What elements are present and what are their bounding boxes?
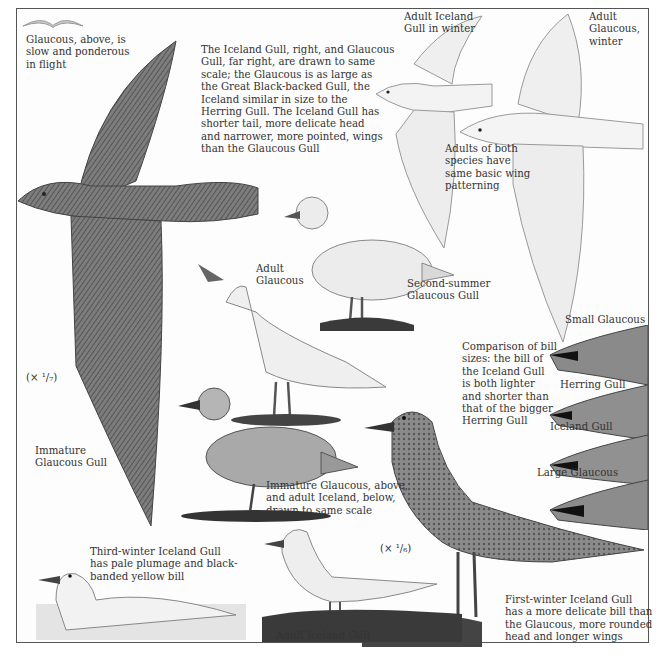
caption-adult-iceland-winter: Adult Iceland Gull in winter xyxy=(404,11,475,36)
caption-small-glaucous: Small Glaucous xyxy=(565,314,645,326)
caption-flight-note: Glaucous, above, is slow and ponderous i… xyxy=(26,34,130,71)
scale-label-right: (× ¹/₆) xyxy=(380,543,411,555)
adult-iceland-standing-illustration xyxy=(262,522,462,642)
label-large-glaucous: Large Glaucous xyxy=(537,467,618,479)
caption-first-winter-iceland: First-winter Iceland Gull has a more del… xyxy=(505,594,652,644)
caption-third-winter-iceland: Third-winter Iceland Gull has pale pluma… xyxy=(90,546,237,583)
caption-bill-comparison: Comparison of bill sizes: the bill of th… xyxy=(462,341,557,428)
caption-adult-glaucous-winter: Adult Glaucous, winter xyxy=(589,11,640,48)
label-herring-gull: Herring Gull xyxy=(560,379,625,391)
caption-second-summer-glaucous: Second-summer Glaucous Gull xyxy=(407,278,490,303)
caption-adult-glaucous: Adult Glaucous xyxy=(256,263,304,288)
caption-adult-iceland: Adult Iceland Gull xyxy=(276,630,370,642)
scale-label-left: (× ¹/₇) xyxy=(26,372,57,384)
caption-scale-note: The Iceland Gull, right, and Glaucous Gu… xyxy=(201,44,395,156)
label-iceland-gull-bill: Iceland Gull xyxy=(550,421,613,433)
glaucous-flight-silhouette xyxy=(22,14,84,30)
caption-immature-glaucous: Immature Glaucous Gull xyxy=(35,445,107,470)
caption-wing-pattern-note: Adults of both species have same basic w… xyxy=(445,143,530,193)
caption-immature-pair-note: Immature Glaucous, above, and adult Icel… xyxy=(266,480,408,517)
